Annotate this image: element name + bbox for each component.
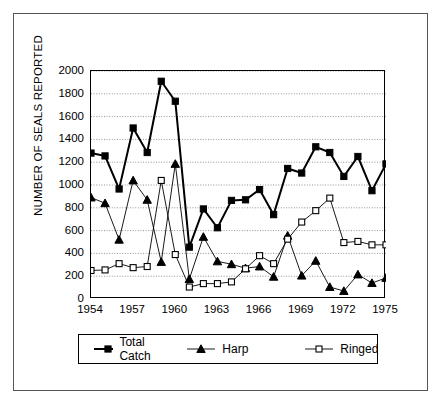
data-point — [171, 160, 179, 168]
legend-marker-filled-square-icon — [93, 342, 113, 356]
series-ringed — [91, 177, 386, 290]
data-point — [341, 173, 347, 179]
x-tick-label: 1969 — [288, 303, 314, 315]
data-point — [299, 219, 305, 225]
x-tick-label: 1972 — [330, 303, 356, 315]
chart-svg — [91, 71, 386, 299]
data-point — [299, 170, 305, 176]
data-point — [382, 274, 386, 282]
data-point — [143, 196, 151, 204]
data-point — [383, 161, 386, 167]
chart-legend: Total CatchHarpRinged — [78, 334, 378, 364]
data-point — [186, 244, 192, 250]
data-point — [285, 165, 291, 171]
data-point — [129, 176, 137, 184]
data-point — [157, 258, 165, 266]
plot-area — [90, 70, 385, 298]
data-point — [91, 268, 94, 274]
data-point — [369, 188, 375, 194]
data-point — [213, 257, 221, 265]
data-point — [228, 279, 234, 285]
data-point — [255, 262, 263, 270]
data-point — [228, 197, 234, 203]
y-tick-label: 2000 — [58, 64, 84, 76]
data-point — [327, 149, 333, 155]
data-point — [257, 253, 263, 259]
data-point — [101, 199, 109, 207]
x-tick-label: 1957 — [119, 303, 145, 315]
legend-label: Total Catch — [119, 335, 160, 363]
data-point — [242, 197, 248, 203]
data-point — [172, 252, 178, 258]
data-point — [102, 153, 108, 159]
data-point — [243, 266, 249, 272]
data-point — [158, 78, 164, 84]
data-point — [271, 212, 277, 218]
data-point — [91, 150, 94, 156]
legend-label: Harp — [222, 342, 248, 356]
data-point — [285, 236, 291, 242]
data-point — [369, 242, 375, 248]
y-tick-label: 1000 — [58, 178, 84, 190]
data-point — [327, 195, 333, 201]
legend-marker-open-square-icon — [304, 342, 334, 356]
data-point — [158, 177, 164, 183]
data-point — [172, 98, 178, 104]
data-point — [326, 283, 334, 291]
y-tick-label: 200 — [65, 269, 84, 281]
data-point — [199, 233, 207, 241]
y-tick-label: 400 — [65, 246, 84, 258]
series-total-catch — [91, 78, 386, 250]
legend-marker-filled-triangle-icon — [186, 342, 216, 356]
data-point — [214, 281, 220, 287]
y-tick-label: 1800 — [58, 87, 84, 99]
data-point — [144, 264, 150, 270]
y-axis-title: NUMBER OF SEALS REPORTED — [32, 36, 44, 216]
y-tick-label: 800 — [65, 201, 84, 213]
data-point — [200, 206, 206, 212]
data-point — [256, 186, 262, 192]
x-tick-label: 1954 — [77, 303, 103, 315]
y-tick-label: 1400 — [58, 132, 84, 144]
data-point — [313, 208, 319, 214]
data-point — [368, 279, 376, 287]
data-point — [271, 261, 277, 267]
y-tick-label: 600 — [65, 224, 84, 236]
data-point — [102, 267, 108, 273]
x-tick-label: 1975 — [372, 303, 398, 315]
figure: NUMBER OF SEALS REPORTED 020040060080010… — [0, 0, 443, 406]
y-tick-label: 1200 — [58, 155, 84, 167]
data-point — [341, 240, 347, 246]
data-point — [116, 186, 122, 192]
data-point — [355, 238, 361, 244]
legend-item-harp[interactable]: Harp — [186, 342, 248, 356]
data-point — [214, 225, 220, 231]
y-tick-label: 1600 — [58, 110, 84, 122]
data-point — [200, 281, 206, 287]
data-point — [312, 257, 320, 265]
data-point — [354, 270, 362, 278]
legend-item-total-catch[interactable]: Total Catch — [93, 335, 160, 363]
data-point — [130, 265, 136, 271]
legend-label: Ringed — [340, 342, 378, 356]
data-point — [91, 193, 95, 201]
data-point — [186, 284, 192, 290]
data-point — [115, 236, 123, 244]
x-tick-label: 1966 — [246, 303, 272, 315]
data-point — [130, 125, 136, 131]
data-point — [383, 242, 386, 248]
data-point — [144, 149, 150, 155]
data-point — [116, 261, 122, 267]
legend-item-ringed[interactable]: Ringed — [304, 342, 378, 356]
x-tick-label: 1960 — [161, 303, 187, 315]
data-point — [313, 144, 319, 150]
data-point — [355, 153, 361, 159]
x-tick-label: 1963 — [204, 303, 230, 315]
